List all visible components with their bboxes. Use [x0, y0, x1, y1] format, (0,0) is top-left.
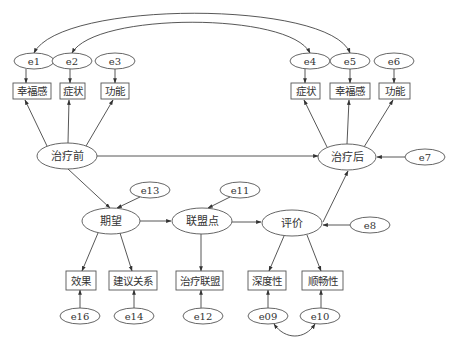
error-node-e2: e2	[52, 53, 92, 69]
observed-node-depth: 深度性	[248, 271, 286, 290]
error-node-label: e14	[125, 311, 144, 322]
observed-node-label: 症状	[63, 85, 84, 97]
observed-nodes: 幸福感症状功能症状幸福感功能效果建议关系治疗联盟深度性顺畅性	[13, 83, 410, 290]
edge-pre-expect	[68, 169, 110, 208]
edge-post-symptom	[304, 100, 327, 147]
latent-node-label: 治疗后	[331, 150, 364, 164]
error-node-label: e11	[231, 185, 250, 196]
edge-expect-advice	[120, 233, 132, 271]
observed-node-label: 深度性	[252, 275, 282, 287]
covariance-e2-e4	[72, 22, 310, 53]
latent-node-eval: 评价	[262, 210, 322, 236]
edge-pre-function	[86, 100, 113, 146]
error-node-e7: e7	[405, 149, 445, 165]
observed-node-label: 顺畅性	[308, 275, 338, 287]
observed-node-effect: 效果	[66, 271, 96, 290]
observed-node-label: 幸福感	[17, 85, 48, 97]
latent-nodes: 治疗前治疗后期望联盟点评价	[37, 143, 376, 236]
latent-node-label: 评价	[281, 217, 303, 230]
error-node-e4: e4	[290, 53, 330, 69]
observed-node-pre_symptom: 症状	[60, 83, 85, 99]
latent-node-pre: 治疗前	[37, 143, 97, 169]
error-node-label: e1	[28, 56, 40, 67]
covariance-e09-e10	[274, 324, 315, 336]
observed-node-label: 效果	[71, 275, 92, 287]
edge-post-happy	[347, 100, 349, 144]
error-node-e09: e09	[248, 308, 288, 324]
error-node-label: e5	[344, 56, 356, 67]
error-node-e3: e3	[95, 53, 135, 69]
error-node-label: e16	[71, 311, 90, 322]
edge-e13-expect	[117, 197, 140, 208]
observed-node-label: 幸福感	[335, 85, 366, 97]
observed-node-pre_function: 功能	[101, 83, 129, 99]
edge-eval-post	[323, 171, 348, 222]
error-node-label: e3	[109, 56, 121, 67]
latent-node-label: 治疗前	[51, 149, 84, 163]
latent-node-expect: 期望	[82, 208, 140, 234]
error-node-e12: e12	[183, 308, 223, 324]
observed-node-label: 建议关系	[113, 275, 153, 287]
observed-node-label: 功能	[385, 85, 406, 97]
edge-post-function	[364, 100, 393, 147]
error-node-e10: e10	[300, 308, 340, 324]
observed-node-pre_happy: 幸福感	[13, 83, 51, 99]
error-node-e5: e5	[330, 53, 370, 69]
observed-node-label: 功能	[105, 85, 126, 97]
latent-node-label: 联盟点	[186, 215, 219, 228]
error-node-e8: e8	[350, 217, 390, 233]
error-node-label: e4	[304, 56, 316, 67]
observed-node-label: 症状	[296, 85, 317, 97]
covariance-e1-e5	[34, 13, 350, 53]
edge-pre-symptom	[68, 100, 69, 143]
latent-node-alliance: 联盟点	[172, 208, 232, 234]
observed-node-post_happy: 幸福感	[330, 83, 370, 99]
error-node-e11: e11	[220, 182, 260, 198]
latent-node-label: 期望	[100, 215, 122, 228]
observed-node-smooth: 顺畅性	[302, 271, 343, 290]
error-node-label: e6	[388, 56, 400, 67]
error-node-e13: e13	[130, 182, 170, 198]
error-node-e16: e16	[60, 308, 100, 324]
observed-node-treat_alliance: 治疗联盟	[176, 271, 223, 290]
observed-node-post_function: 功能	[379, 83, 410, 99]
error-node-label: e7	[419, 152, 431, 163]
error-node-label: e13	[141, 185, 160, 196]
edge-eval-smooth	[307, 235, 321, 271]
error-node-label: e12	[194, 311, 213, 322]
edge-eval-depth	[269, 236, 284, 271]
edge-e11-alliance	[208, 197, 230, 208]
observed-node-label: 治疗联盟	[180, 275, 221, 287]
error-node-label: e10	[311, 311, 330, 322]
observed-node-advice: 建议关系	[109, 271, 157, 290]
error-node-label: e8	[364, 220, 376, 231]
error-node-label: e2	[66, 56, 78, 67]
sem-diagram: e1e2e3e4e5e6e7e8e11e13e16e14e12e09e10 治疗…	[0, 0, 455, 342]
edge-expect-effect	[82, 233, 98, 271]
latent-node-post: 治疗后	[318, 144, 376, 170]
error-node-label: e09	[259, 311, 278, 322]
edge-pre-happy	[25, 100, 47, 146]
error-node-e6: e6	[374, 53, 414, 69]
error-node-e1: e1	[14, 53, 54, 69]
observed-node-post_symptom: 症状	[291, 83, 320, 99]
error-node-e14: e14	[114, 308, 154, 324]
